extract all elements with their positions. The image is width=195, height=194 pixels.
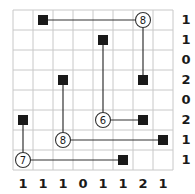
row-clue: 2: [178, 72, 194, 88]
row-clue: 1: [178, 12, 194, 28]
number-circle: 8: [56, 133, 71, 148]
black-square: [118, 155, 128, 165]
grid-cell[interactable]: [53, 50, 73, 70]
grid-cell[interactable]: [73, 50, 93, 70]
grid-cell[interactable]: [153, 50, 173, 70]
column-clue: 1: [115, 176, 131, 192]
black-square: [138, 75, 148, 85]
column-clue: 1: [155, 176, 171, 192]
row-clue: 1: [178, 32, 194, 48]
grid-cell[interactable]: [53, 30, 73, 50]
column-clue: 1: [95, 176, 111, 192]
row-clue: 0: [178, 92, 194, 108]
black-square: [38, 15, 48, 25]
black-square: [158, 135, 168, 145]
grid-cell[interactable]: [33, 90, 53, 110]
grid-cell[interactable]: [73, 30, 93, 50]
grid-cell[interactable]: [33, 110, 53, 130]
grid-cells[interactable]: [13, 10, 173, 170]
grid-cell[interactable]: [153, 30, 173, 50]
column-clue: 1: [15, 176, 31, 192]
grid-cell[interactable]: [73, 90, 93, 110]
grid-cell[interactable]: [113, 70, 133, 90]
grid-cell[interactable]: [73, 110, 93, 130]
puzzle-board: 8687: [0, 0, 195, 194]
grid-cell[interactable]: [13, 90, 33, 110]
grid-cell[interactable]: [113, 30, 133, 50]
grid-cell[interactable]: [13, 70, 33, 90]
grid-cell[interactable]: [73, 70, 93, 90]
grid-cell[interactable]: [33, 130, 53, 150]
circle-number: 6: [100, 115, 106, 126]
row-clue: 0: [178, 52, 194, 68]
black-square: [18, 115, 28, 125]
number-circle: 7: [16, 153, 31, 168]
grid-cell[interactable]: [13, 30, 33, 50]
circle-number: 8: [60, 135, 66, 146]
grid-cell[interactable]: [153, 110, 173, 130]
column-clue: 0: [75, 176, 91, 192]
row-clue: 2: [178, 112, 194, 128]
circle-number: 7: [20, 155, 26, 166]
black-square: [58, 75, 68, 85]
grid-cell[interactable]: [153, 70, 173, 90]
grid-cell[interactable]: [33, 30, 53, 50]
grid-cell[interactable]: [13, 50, 33, 70]
grid-cell[interactable]: [133, 150, 153, 170]
grid-cell[interactable]: [133, 90, 153, 110]
column-clue: 2: [135, 176, 151, 192]
black-square: [98, 35, 108, 45]
row-clue: 1: [178, 132, 194, 148]
column-clue: 1: [55, 176, 71, 192]
black-square: [138, 115, 148, 125]
grid-cell[interactable]: [153, 10, 173, 30]
grid-cell[interactable]: [13, 10, 33, 30]
grid-cell[interactable]: [153, 150, 173, 170]
number-circle: 6: [96, 113, 111, 128]
column-clue: 1: [35, 176, 51, 192]
number-circle: 8: [136, 13, 151, 28]
row-clue: 1: [178, 152, 194, 168]
grid-cell[interactable]: [153, 90, 173, 110]
grid-cell[interactable]: [33, 70, 53, 90]
grid-cell[interactable]: [113, 90, 133, 110]
grid-cell[interactable]: [33, 50, 53, 70]
circle-number: 8: [140, 15, 146, 26]
grid-cell[interactable]: [113, 50, 133, 70]
